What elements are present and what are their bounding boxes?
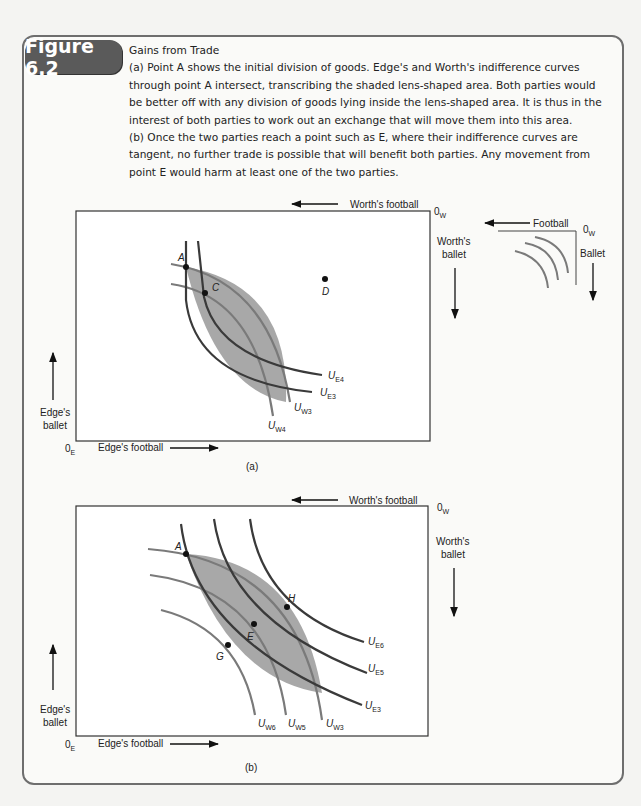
top-axis-label-a: Worth's football [350,199,418,210]
figure-charts: A C D UE4 UE3 UW3 UW4 Worth's football 0… [0,0,641,806]
orientation-inset: Football 0W Ballet [485,218,605,300]
top-axis-label-b: Worth's football [349,495,417,506]
right-axis-label-b-1: Worth's [436,536,469,547]
origin-e-b: 0E [65,739,76,752]
origin-e-a: 0E [65,443,76,456]
panel-label-a: (a) [246,461,258,472]
right-axis-label-a-2: ballet [442,249,466,260]
point-E [251,621,257,627]
label-H: H [288,593,296,604]
panel-label-b: (b) [245,762,257,773]
label-G: G [216,651,224,662]
point-A-b [183,551,189,557]
right-axis-label-a-1: Worth's [437,236,470,247]
label-A-a: A [177,252,185,263]
point-G [225,642,231,648]
point-D [322,276,328,282]
left-axis-label-b-1: Edge's [40,704,70,715]
right-axis-label-b-2: ballet [441,549,465,560]
label-A-b: A [174,541,182,552]
origin-w-b: 0W [437,502,450,515]
left-axis-label-a-2: ballet [43,420,67,431]
left-axis-label-b-2: ballet [43,717,67,728]
inset-ballet-label: Ballet [580,248,605,259]
chart-a: A C D UE4 UE3 UW3 UW4 Worth's football 0… [40,199,470,472]
origin-w-a: 0W [434,206,447,219]
label-C: C [212,282,220,293]
label-D: D [322,286,329,297]
point-H [284,604,290,610]
point-A-a [183,264,189,270]
bottom-axis-label-a: Edge's football [98,442,163,453]
label-E: E [247,631,254,642]
bottom-axis-label-b: Edge's football [98,738,163,749]
left-axis-label-a-1: Edge's [40,407,70,418]
inset-origin-w: 0W [583,224,596,237]
chart-b: A E G H UE6 UE5 UE3 UW6 UW5 UW3 Worth's … [40,495,469,773]
point-C [202,290,208,296]
inset-football-label: Football [533,218,569,229]
